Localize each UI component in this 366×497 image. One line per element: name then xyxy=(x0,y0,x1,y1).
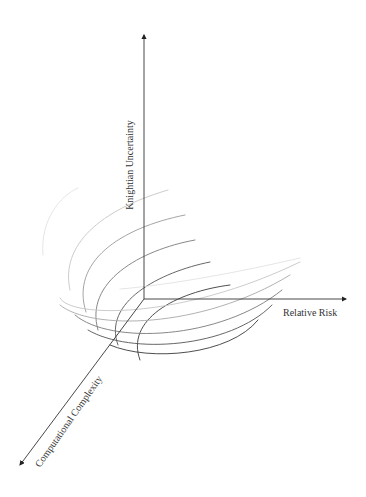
vertical-curve-3 xyxy=(83,215,185,312)
vertical-curve-6 xyxy=(137,285,230,360)
computational-complexity-label: Computational Complexity xyxy=(33,373,105,469)
relative-risk-label: Relative Risk xyxy=(283,307,337,318)
horizontal-curve-group xyxy=(60,258,300,354)
vertical-curve-group xyxy=(43,188,230,360)
knightian-uncertainty-label: Knightian Uncertainty xyxy=(124,120,135,210)
computational-complexity-axis xyxy=(20,299,144,465)
vertical-curve-1 xyxy=(43,188,78,255)
horizontal-curve-2 xyxy=(60,262,300,311)
horizontal-curve-6 xyxy=(110,320,258,354)
horizontal-curve-3 xyxy=(60,275,290,321)
3d-axes-diagram: Knightian Uncertainty Relative Risk Comp… xyxy=(0,0,366,497)
